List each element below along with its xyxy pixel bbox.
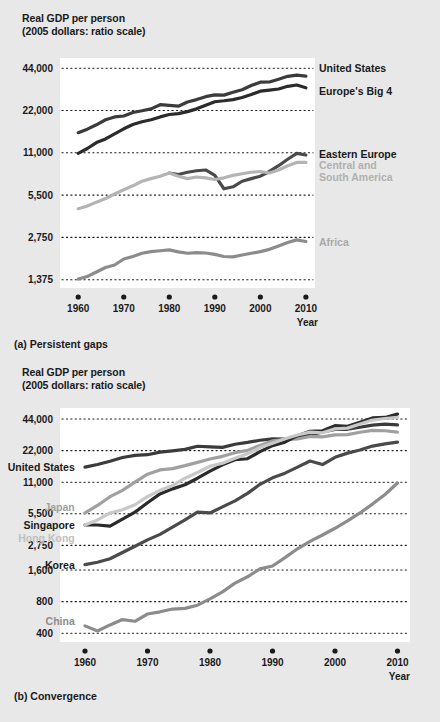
- x-tick-label: 1990: [204, 303, 227, 314]
- y-tick-label: 22,000: [22, 445, 53, 456]
- panel-a-caption: (a) Persistent gaps: [14, 338, 108, 350]
- panel-b-plot: 4008001,6002,7505,50011,00022,00044,0001…: [0, 394, 440, 684]
- y-tick-label: 22,000: [22, 105, 53, 116]
- panel-a-svg: 1,3752,7505,50011,00022,00044,0001960197…: [0, 40, 440, 340]
- x-tick-dot: [303, 294, 308, 299]
- panel-b-title-line2: (2005 dollars: ratio scale): [22, 379, 145, 392]
- panel-a-axis-title: Real GDP per person (2005 dollars: ratio…: [22, 12, 145, 38]
- x-tick-dot: [270, 648, 275, 653]
- panel-b-svg: 4008001,6002,7505,50011,00022,00044,0001…: [0, 394, 440, 684]
- series-label: Korea: [45, 559, 75, 571]
- y-tick-label: 1,375: [28, 274, 53, 285]
- x-tick-label: 1960: [67, 303, 90, 314]
- x-tick-label: 1980: [199, 657, 222, 668]
- y-tick-label: 44,000: [22, 63, 53, 74]
- y-tick-label: 11,000: [23, 477, 53, 488]
- x-axis-label: Year: [297, 317, 318, 328]
- y-tick-label: 800: [36, 596, 53, 607]
- y-tick-label: 5,500: [28, 190, 53, 201]
- panel-b-axis-title: Real GDP per person (2005 dollars: ratio…: [22, 366, 145, 392]
- series-label: Africa: [319, 236, 349, 248]
- x-tick-dot: [332, 648, 337, 653]
- x-tick-label: 1990: [261, 657, 284, 668]
- series-label: South America: [319, 171, 393, 183]
- series-label: Japan: [44, 501, 74, 513]
- x-axis-label: Year: [389, 671, 410, 682]
- panel-a-title-line1: Real GDP per person: [22, 12, 145, 25]
- y-tick-label: 400: [36, 628, 53, 639]
- x-tick-dot: [145, 648, 150, 653]
- panel-b-title-line1: Real GDP per person: [22, 366, 145, 379]
- x-tick-label: 2010: [386, 657, 409, 668]
- x-tick-label: 1980: [158, 303, 181, 314]
- panel-persistent-gaps: Real GDP per person (2005 dollars: ratio…: [0, 0, 440, 362]
- x-tick-dot: [258, 294, 263, 299]
- x-tick-label: 1960: [74, 657, 97, 668]
- x-tick-dot: [76, 294, 81, 299]
- x-tick-label: 1970: [113, 303, 136, 314]
- x-tick-dot: [212, 294, 217, 299]
- x-tick-dot: [395, 648, 400, 653]
- series-label: Europe's Big 4: [319, 85, 392, 97]
- series-label: Singapore: [23, 519, 75, 531]
- x-tick-dot: [121, 294, 126, 299]
- panel-convergence: Real GDP per person (2005 dollars: ratio…: [0, 362, 440, 722]
- x-tick-label: 2010: [295, 303, 318, 314]
- panel-a-plot: 1,3752,7505,50011,00022,00044,0001960197…: [0, 40, 440, 340]
- series-label: China: [46, 615, 75, 627]
- x-tick-label: 2000: [249, 303, 272, 314]
- x-tick-label: 2000: [324, 657, 347, 668]
- x-tick-dot: [167, 294, 172, 299]
- y-tick-label: 2,750: [28, 232, 53, 243]
- y-tick-label: 44,000: [22, 414, 53, 425]
- panel-b-caption: (b) Convergence: [14, 690, 97, 702]
- series-label: Hong Kong: [18, 532, 75, 544]
- series-label: Central and: [319, 159, 377, 171]
- series-label: United States: [319, 62, 386, 74]
- panel-a-title-line2: (2005 dollars: ratio scale): [22, 25, 145, 38]
- series-label: United States: [8, 461, 75, 473]
- y-tick-label: 11,000: [23, 147, 53, 158]
- x-tick-dot: [82, 648, 87, 653]
- figure-page: Real GDP per person (2005 dollars: ratio…: [0, 0, 440, 722]
- x-tick-dot: [207, 648, 212, 653]
- x-tick-label: 1970: [136, 657, 159, 668]
